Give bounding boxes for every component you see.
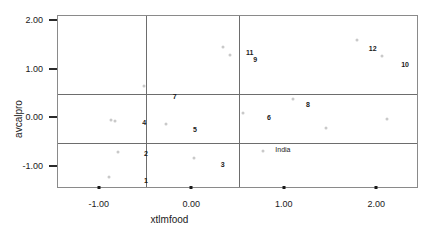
plot-area: 123456789101112India [57,15,418,188]
x-tick-mark [282,186,285,189]
point-label-10: 10 [401,60,409,67]
data-point [109,118,112,121]
point-label-12: 12 [369,45,377,52]
data-point [117,151,120,154]
point-label-7: 7 [173,92,177,99]
y-tick-label: 1.00 [25,64,43,74]
x-tick-label: 1.00 [275,199,293,209]
y-tick-mark [49,68,57,70]
data-point [324,127,327,130]
point-label-india: India [275,145,290,152]
y-tick-mark [49,165,57,167]
data-point [229,53,232,56]
point-label-11: 11 [246,49,253,56]
point-label-5: 5 [193,126,197,133]
reference-line-vertical-1 [239,16,240,187]
x-tick-mark [190,186,193,189]
y-tick-mark [49,19,57,21]
point-label-6: 6 [267,114,271,121]
point-label-9: 9 [253,55,257,62]
x-axis: -1.000.001.002.00 xtlmfood [57,188,418,237]
y-tick-label: 2.00 [25,15,43,25]
x-axis-title: xtlmfood [57,214,418,225]
data-point [107,175,110,178]
scatter-plot-screenshot: avcalpro 2.001.000.00-1.00 1234567891011… [0,0,425,237]
x-tick-mark [97,186,100,189]
point-label-8: 8 [306,100,310,107]
data-point [114,119,117,122]
data-point [242,111,245,114]
data-point [355,39,358,42]
data-point [261,150,264,153]
reference-line-horizontal-0 [58,94,417,95]
y-tick-mark [49,116,57,118]
point-label-1: 1 [144,177,148,184]
x-tick-label: -1.00 [88,199,109,209]
data-point [221,46,224,49]
point-label-4: 4 [142,119,146,126]
y-axis: avcalpro 2.001.000.00-1.00 [0,0,57,237]
data-point [165,123,168,126]
reference-line-horizontal-1 [58,143,417,144]
y-tick-label: 0.00 [25,112,43,122]
y-tick-label: -1.00 [22,161,43,171]
data-point [143,85,146,88]
x-tick-label: 0.00 [182,199,200,209]
y-axis-title: avcalpro [13,74,24,164]
data-point [380,54,383,57]
data-point [193,157,196,160]
x-tick-label: 2.00 [368,199,386,209]
data-point [385,118,388,121]
point-label-2: 2 [144,150,148,157]
reference-line-vertical-0 [146,16,147,187]
x-axis-title-text: xtlmfood [151,214,189,225]
x-tick-mark [375,186,378,189]
point-label-3: 3 [221,160,225,167]
data-point [292,98,295,101]
